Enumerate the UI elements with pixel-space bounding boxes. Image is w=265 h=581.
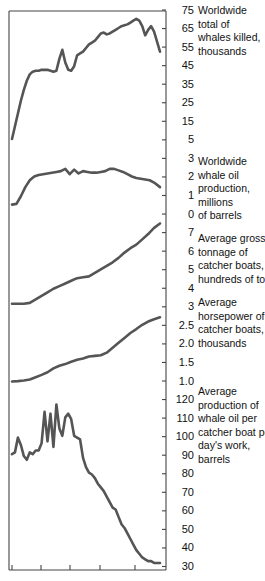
axis-tick-label: 100 (170, 431, 194, 442)
series-line-2 (12, 169, 160, 205)
axis-tick-label: 60 (170, 505, 194, 516)
axis-tick-label: 120 (170, 394, 194, 405)
axis-tick-label: 7 (170, 227, 194, 238)
caption-gross-tonnage: Average gross tonnage of catcher boats, … (198, 232, 265, 286)
axis-tick-label: 40 (170, 542, 194, 553)
axis-tick-label: 45 (170, 60, 194, 71)
series-line-4 (12, 317, 160, 381)
axis-tick-label: 90 (170, 450, 194, 461)
axis-tick-label: 80 (170, 468, 194, 479)
axis-tick-label: 1.5 (170, 357, 194, 368)
axis-tick-label: 55 (170, 42, 194, 53)
axis-tick-label: 75 (170, 5, 194, 16)
axis-tick-label: 3 (170, 153, 194, 164)
axis-tick-label: 1.0 (170, 376, 194, 387)
axis-tick-label: 65 (170, 23, 194, 34)
caption-horsepower: Average horsepower of catcher boats, tho… (198, 296, 265, 350)
axis-tick-label: 3 (170, 301, 194, 312)
axis-tick-label: 5 (170, 134, 194, 145)
axis-tick-label: 0 (170, 209, 194, 220)
whaling-statistics-figure: 7565554535251553210765432.52.01.51.01201… (0, 0, 265, 581)
axis-tick-label: 2.0 (170, 338, 194, 349)
chart-canvas (0, 0, 265, 581)
axis-tick-label: 4 (170, 283, 194, 294)
caption-whales-killed: Worldwide total of whales killed, thousa… (198, 4, 265, 58)
axis-tick-label: 30 (170, 561, 194, 572)
axis-tick-label: 1 (170, 190, 194, 201)
series-line-1 (12, 19, 160, 139)
caption-oil-per-boat-day: Average production of whale oil per catc… (198, 385, 265, 467)
axis-tick-label: 70 (170, 487, 194, 498)
axis-tick-label: 15 (170, 116, 194, 127)
axis-tick-label: 5 (170, 264, 194, 275)
series-line-3 (12, 223, 160, 303)
axis-tick-label: 35 (170, 79, 194, 90)
axis-tick-label: 110 (170, 413, 194, 424)
caption-whale-oil-production: Worldwide whale oil production, millions… (198, 155, 265, 223)
axis-tick-label: 2.5 (170, 320, 194, 331)
axis-tick-label: 25 (170, 97, 194, 108)
axis-tick-label: 2 (170, 171, 194, 182)
axis-tick-label: 6 (170, 246, 194, 257)
series-line-5 (12, 404, 160, 563)
axis-tick-label: 50 (170, 524, 194, 535)
